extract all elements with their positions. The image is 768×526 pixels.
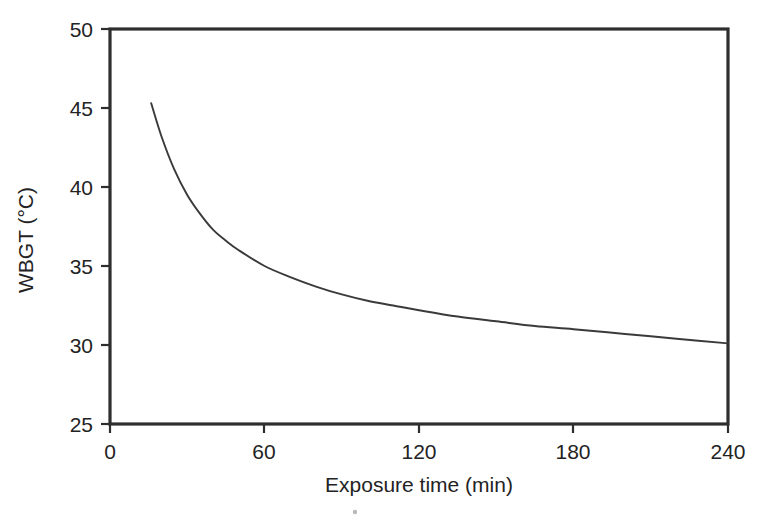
y-tick-label: 30	[70, 334, 93, 357]
scan-speck	[353, 510, 357, 514]
x-tick-label: 120	[401, 440, 436, 463]
x-tick-label: 180	[555, 440, 590, 463]
data-curve-wbgt	[151, 103, 728, 343]
y-tick-label: 25	[70, 413, 93, 436]
chart-svg: 50 45 40 35 30 25 0 60 120 180 240 Expos…	[0, 0, 768, 526]
y-tick-label: 50	[70, 18, 93, 41]
x-tick-label: 240	[710, 440, 745, 463]
x-tick-label: 60	[252, 440, 275, 463]
x-axis-title: Exposure time (min)	[325, 473, 513, 496]
x-tick-labels: 0 60 120 180 240	[104, 440, 745, 463]
x-tick-label: 0	[104, 440, 116, 463]
y-tick-label: 45	[70, 97, 93, 120]
y-axis-title: WBGT (°C)	[14, 187, 37, 293]
plot-frame	[110, 29, 728, 424]
y-tick-labels: 50 45 40 35 30 25	[70, 18, 93, 436]
y-tick-label: 40	[70, 176, 93, 199]
y-tick-label: 35	[70, 255, 93, 278]
chart-figure: 50 45 40 35 30 25 0 60 120 180 240 Expos…	[0, 0, 768, 526]
